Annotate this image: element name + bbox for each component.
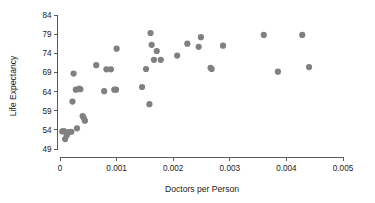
y-axis-tick-label: 79 [42, 30, 52, 39]
data-point [209, 66, 215, 72]
y-axis-tick-label: 54 [42, 126, 52, 135]
x-axis-tick-label: 0.004 [276, 164, 297, 173]
data-point [69, 98, 75, 104]
data-point [77, 86, 83, 92]
y-axis-tick-group [54, 15, 58, 149]
y-axis-tick-label: 59 [42, 107, 52, 116]
data-points-layer [59, 30, 312, 142]
data-point [108, 66, 114, 72]
data-point [184, 41, 190, 47]
data-point [147, 30, 153, 36]
data-point [306, 64, 312, 70]
plot-svg: 4954596469747984 00.0010.0020.0030.0040.… [0, 0, 375, 203]
data-point [198, 34, 204, 40]
y-axis-title: Life Expectancy [8, 55, 18, 116]
y-axis-tick-label: 64 [42, 88, 52, 97]
x-axis-tick-group [60, 158, 343, 162]
x-axis-tick-labels: 00.0010.0020.0030.0040.005 [58, 164, 354, 173]
data-point [74, 125, 80, 131]
data-point [68, 129, 74, 135]
data-point [261, 32, 267, 38]
data-point [146, 101, 152, 107]
data-point [139, 84, 145, 90]
data-point [174, 52, 180, 58]
x-axis-title: Doctors per Person [165, 184, 239, 194]
data-point [143, 66, 149, 72]
data-point [158, 57, 164, 63]
x-axis-tick-label: 0.003 [220, 164, 241, 173]
y-axis-tick-label: 74 [42, 49, 52, 58]
data-point [196, 44, 202, 50]
y-axis-tick-label: 49 [42, 145, 52, 154]
y-axis-tick-label: 84 [42, 11, 52, 20]
data-point [154, 48, 160, 54]
y-axis-tick-labels: 4954596469747984 [42, 11, 52, 154]
data-point [93, 62, 99, 68]
x-axis-tick-label: 0.005 [333, 164, 354, 173]
data-point [113, 87, 119, 93]
data-point [151, 57, 157, 63]
x-axis-tick-label: 0.002 [163, 164, 184, 173]
data-point [275, 69, 281, 75]
data-point [101, 88, 107, 94]
data-point [149, 42, 155, 48]
data-point [82, 118, 88, 124]
data-point [70, 70, 76, 76]
scatter-chart: 4954596469747984 00.0010.0020.0030.0040.… [0, 0, 375, 203]
x-axis-tick-label: 0.001 [106, 164, 127, 173]
data-point [114, 46, 120, 52]
y-axis-tick-label: 69 [42, 68, 52, 77]
x-axis-tick-label: 0 [58, 164, 63, 173]
data-point [220, 43, 226, 49]
data-point [299, 32, 305, 38]
